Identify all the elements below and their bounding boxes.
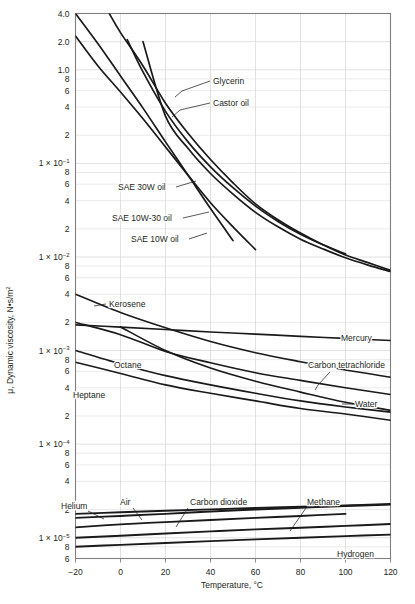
y-tick-label: 6 <box>65 554 70 564</box>
series-label-heptane: Heptane <box>73 390 105 400</box>
y-tick-label: 2.0 <box>58 37 70 47</box>
y-tick-label: 8 <box>65 448 70 458</box>
x-tick-label: 100 <box>338 567 352 577</box>
series-label-water: Water <box>355 399 378 409</box>
y-tick-label: 8 <box>65 542 70 552</box>
x-tick-label: 40 <box>206 567 216 577</box>
series-label-carbon-tetrachloride: Carbon tetrachloride <box>308 360 385 370</box>
x-tick-label: −20 <box>68 567 83 577</box>
y-tick-label: 8 <box>65 355 70 365</box>
series-label-methane: Methane <box>307 497 340 507</box>
series-label-carbon-dioxide: Carbon dioxide <box>190 497 247 507</box>
series-label-glycerin: Glycerin <box>213 76 244 86</box>
series-label-sae-10w-oil: SAE 10W oil <box>131 234 179 244</box>
y-tick-label: 2 <box>65 130 70 140</box>
series-label-kerosene: Kerosene <box>109 299 146 309</box>
y-tick-label: 4 <box>65 383 70 393</box>
y-tick-label: 6 <box>65 366 70 376</box>
y-tick-label: 4 <box>65 196 70 206</box>
series-label-hydrogen: Hydrogen <box>337 549 374 559</box>
x-tick-label: 120 <box>383 567 397 577</box>
y-tick-label: 2 <box>65 411 70 421</box>
series-label-octane: Octane <box>114 360 142 370</box>
x-tick-label: 60 <box>251 567 261 577</box>
series-label-mercury: Mercury <box>341 333 372 343</box>
x-tick-label: 20 <box>161 567 171 577</box>
dynamic-viscosity-vs-temperature-chart: 4.02.01.086421 × 10−186421 × 10−286421 ×… <box>0 0 415 604</box>
series-label-air: Air <box>120 497 131 507</box>
series-label-sae-10w-30-oil: SAE 10W-30 oil <box>112 213 172 223</box>
y-tick-label: 8 <box>65 261 70 271</box>
y-axis-title: μ, Dynamic viscosity, N•s/m2 <box>5 286 15 394</box>
y-tick-label: 6 <box>65 86 70 96</box>
series-label-castor-oil: Castor oil <box>213 98 249 108</box>
y-tick-label: 2 <box>65 317 70 327</box>
y-tick-label: 6 <box>65 179 70 189</box>
series-label-sae-30w-oil: SAE 30W oil <box>118 182 166 192</box>
y-tick-label: 8 <box>65 74 70 84</box>
x-axis-title: Temperature, °C <box>201 580 263 590</box>
x-tick-label: 0 <box>118 567 123 577</box>
y-tick-label: 6 <box>65 273 70 283</box>
y-tick-label: 4 <box>65 289 70 299</box>
x-tick-label: 80 <box>296 567 306 577</box>
y-tick-label: 4.0 <box>58 9 70 19</box>
y-tick-label: 8 <box>65 167 70 177</box>
viscosity-chart-figure: 4.02.01.086421 × 10−186421 × 10−286421 ×… <box>0 0 415 604</box>
series-label-helium: Helium <box>61 501 87 511</box>
y-tick-label: 2 <box>65 224 70 234</box>
y-tick-label: 6 <box>65 460 70 470</box>
y-tick-label: 4 <box>65 476 70 486</box>
y-tick-label: 4 <box>65 102 70 112</box>
